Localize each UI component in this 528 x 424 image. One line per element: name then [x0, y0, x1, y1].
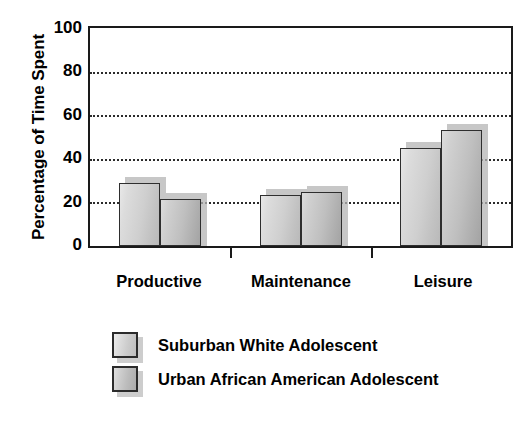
legend-label-series-1: Urban African American Adolescent [158, 370, 439, 389]
y-tick-label-0: 0 [22, 235, 82, 255]
bar-maintenance-series-0 [260, 195, 301, 246]
bar-chart: Percentage of Time Spent 100 80 60 40 20… [0, 0, 528, 424]
bar-productive-series-0 [119, 183, 160, 246]
legend-item-series-0: Suburban White Adolescent [112, 328, 439, 362]
x-label-productive: Productive [88, 272, 230, 291]
y-tick-label-40: 40 [22, 148, 82, 168]
legend-swatch-fill [112, 366, 138, 392]
y-tick-label-80: 80 [22, 61, 82, 81]
x-axis-tick-2 [371, 247, 373, 258]
chart-legend: Suburban White Adolescent Urban African … [112, 328, 439, 396]
legend-item-series-1: Urban African American Adolescent [112, 362, 439, 396]
x-label-leisure: Leisure [372, 272, 514, 291]
legend-swatch-fill [112, 332, 138, 358]
gridline-80 [90, 72, 511, 74]
x-label-maintenance: Maintenance [230, 272, 372, 291]
bar-productive-series-1 [160, 199, 201, 246]
x-axis-tick-1 [230, 247, 232, 258]
bar-maintenance-series-1 [301, 192, 342, 247]
bar-leisure-series-0 [400, 148, 441, 246]
y-tick-label-100: 100 [22, 18, 82, 38]
y-tick-label-60: 60 [22, 105, 82, 125]
plot-area [88, 26, 513, 248]
gridline-60 [90, 115, 511, 117]
legend-swatch-series-0 [112, 330, 146, 360]
legend-swatch-series-1 [112, 364, 146, 394]
bar-leisure-series-1 [441, 130, 482, 246]
y-tick-label-20: 20 [22, 192, 82, 212]
legend-label-series-0: Suburban White Adolescent [158, 336, 377, 355]
